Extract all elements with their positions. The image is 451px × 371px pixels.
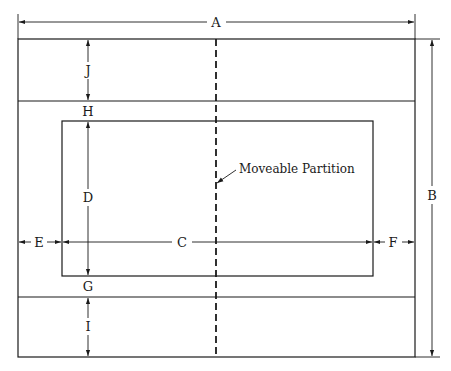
dimension-label-c: C [177, 235, 187, 250]
dimension-label-b: B [427, 188, 437, 203]
dimension-label-i: I [85, 319, 90, 334]
floor-plan-diagram: A B J H D G I E C F Moveable Partition [0, 0, 451, 371]
dimension-label-j: J [83, 63, 90, 78]
dimension-label-a: A [210, 15, 221, 30]
dimension-label-d: D [83, 190, 93, 205]
dimension-label-e: E [34, 235, 44, 250]
partition-annotation: Moveable Partition [239, 162, 355, 176]
inner-area [62, 121, 373, 276]
dimension-label-h: H [82, 104, 93, 119]
dimension-label-g: G [83, 279, 93, 294]
dimension-label-f: F [388, 235, 397, 250]
partition-leader-arrow [217, 170, 236, 183]
